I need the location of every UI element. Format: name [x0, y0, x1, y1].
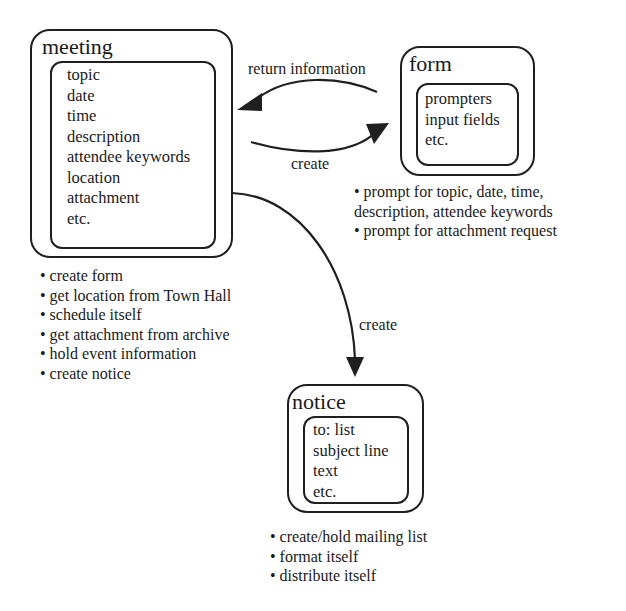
attribute-item: prompters	[425, 89, 500, 110]
responsibility-item: • distribute itself	[270, 566, 427, 586]
responsibility-item: • get location from Town Hall	[40, 286, 231, 306]
responsibility-item: • prompt for attachment request	[354, 221, 557, 241]
node-form-attributes: prompters input fields etc.	[425, 89, 500, 151]
responsibility-item: • hold event information	[40, 344, 231, 364]
attribute-item: time	[67, 106, 190, 127]
arrowhead-icon	[346, 357, 364, 377]
attribute-item: subject line	[313, 441, 389, 462]
arrowhead-icon	[366, 123, 389, 144]
arrowhead-icon	[237, 93, 262, 111]
responsibility-item: • create form	[40, 266, 231, 286]
edge-label-create-notice: create	[359, 316, 397, 334]
attribute-item: to: list	[313, 420, 389, 441]
edge-label-create-form: create	[291, 155, 329, 173]
attribute-item: etc.	[67, 209, 190, 230]
edge-label-return-information: return information	[248, 60, 366, 78]
responsibility-item: • create/hold mailing list	[270, 527, 427, 547]
attribute-item: input fields	[425, 110, 500, 131]
edge-create-form	[251, 130, 378, 151]
attribute-item: etc.	[425, 130, 500, 151]
node-form-responsibilities: • prompt for topic, date, time, descript…	[354, 182, 557, 241]
node-notice-responsibilities: • create/hold mailing list • format itse…	[270, 527, 427, 586]
edge-return-information	[258, 80, 377, 98]
attribute-item: text	[313, 461, 389, 482]
responsibility-item: description, attendee keywords	[354, 202, 557, 222]
node-notice-title: notice	[292, 390, 346, 414]
edge-create-notice	[232, 193, 355, 360]
node-notice-attributes: to: list subject line text etc.	[313, 420, 389, 502]
node-meeting-responsibilities: • create form • get location from Town H…	[40, 266, 231, 383]
node-meeting-title: meeting	[42, 35, 113, 59]
responsibility-item: • schedule itself	[40, 305, 231, 325]
attribute-item: etc.	[313, 482, 389, 503]
node-form-title: form	[409, 52, 452, 76]
attribute-item: description	[67, 127, 190, 148]
attribute-item: location	[67, 168, 190, 189]
attribute-item: date	[67, 86, 190, 107]
attribute-item: attendee keywords	[67, 147, 190, 168]
attribute-item: attachment	[67, 188, 190, 209]
responsibility-item: • get attachment from archive	[40, 325, 231, 345]
responsibility-item: • prompt for topic, date, time,	[354, 182, 557, 202]
responsibility-item: • create notice	[40, 364, 231, 384]
attribute-item: topic	[67, 65, 190, 86]
responsibility-item: • format itself	[270, 547, 427, 567]
node-meeting-attributes: topic date time description attendee key…	[67, 65, 190, 229]
